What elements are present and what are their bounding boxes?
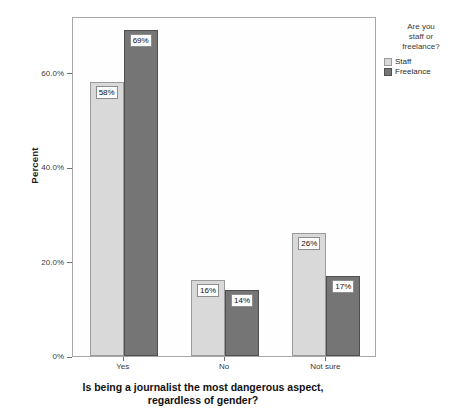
legend-title-line-2: staff or <box>384 32 458 42</box>
bar-value-label: 17% <box>332 280 354 293</box>
bar[interactable]: 26% <box>292 233 326 356</box>
bar[interactable]: 16% <box>191 280 225 356</box>
x-axis-title-line-1: Is being a journalist the most dangerous… <box>28 381 378 394</box>
y-axis-tick-label: 60.0% <box>41 69 64 79</box>
x-axis-tick-mark <box>123 357 124 361</box>
x-axis-category-label: No <box>219 362 229 371</box>
legend-title: Are you staff or freelance? <box>384 22 458 52</box>
legend-swatch-icon <box>384 58 392 66</box>
bar-value-label: 16% <box>197 284 219 297</box>
y-axis-tick-label: 20.0% <box>41 258 64 268</box>
x-axis-category-label: Not sure <box>310 362 340 371</box>
legend-title-line-3: freelance? <box>384 42 458 52</box>
legend: Are you staff or freelance? StaffFreelan… <box>384 22 458 76</box>
x-axis-tick-mark <box>224 357 225 361</box>
plot-area: 58%69%16%14%26%17% <box>72 17 376 357</box>
bar[interactable]: 69% <box>124 30 158 356</box>
bar[interactable]: 17% <box>326 276 360 356</box>
bar[interactable]: 58% <box>90 82 124 356</box>
legend-items: StaffFreelance <box>384 57 458 76</box>
legend-item[interactable]: Staff <box>384 57 458 66</box>
legend-item-label: Freelance <box>395 67 431 76</box>
x-axis-category-label: Yes <box>116 362 129 371</box>
y-axis-tick: 40.0% <box>0 163 72 173</box>
legend-title-line-1: Are you <box>384 22 458 32</box>
y-axis-tick-label: 0% <box>52 352 64 362</box>
x-axis-tick-mark <box>325 357 326 361</box>
y-axis-tick: 60.0% <box>0 69 72 79</box>
y-axis-tick: 0% <box>0 352 72 362</box>
bar-value-label: 26% <box>298 237 320 250</box>
bar-value-label: 69% <box>130 34 152 47</box>
y-axis-tick-label: 40.0% <box>41 163 64 173</box>
legend-item-label: Staff <box>395 57 411 66</box>
legend-item[interactable]: Freelance <box>384 67 458 76</box>
bar[interactable]: 14% <box>225 290 259 356</box>
y-axis-tick: 20.0% <box>0 258 72 268</box>
bar-chart: Percent 60.0%40.0%20.0%0% 58%69%16%14%26… <box>0 0 459 414</box>
bar-value-label: 14% <box>231 294 253 307</box>
bar-value-label: 58% <box>96 86 118 99</box>
x-axis-title-line-2: regardless of gender? <box>28 394 378 407</box>
x-axis-title: Is being a journalist the most dangerous… <box>28 381 378 407</box>
legend-swatch-icon <box>384 68 392 76</box>
